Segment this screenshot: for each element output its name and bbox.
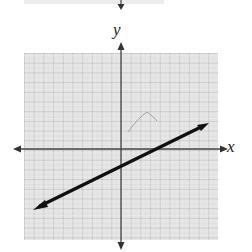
coordinate-plane-figure: y x [0, 0, 252, 252]
y-axis-down-arrow-icon [118, 242, 125, 250]
previous-figure-fragment [24, 0, 164, 10]
x-axis-left-arrow-icon [13, 146, 21, 153]
y-axis-up-arrow-icon [118, 42, 125, 50]
x-axis-label: x [227, 138, 235, 155]
down-arrow-icon [118, 4, 125, 10]
y-axis-label: y [113, 21, 121, 38]
